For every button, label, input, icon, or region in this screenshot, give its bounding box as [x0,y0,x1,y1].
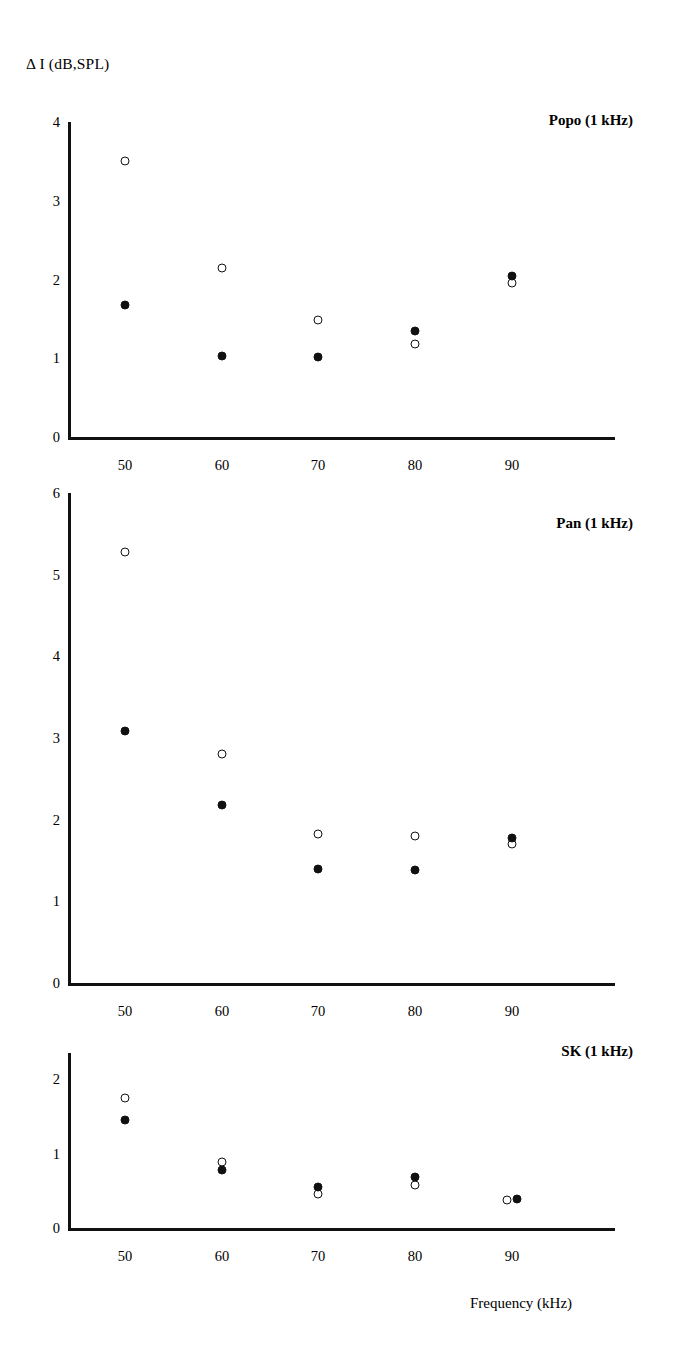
x-axis-line-popo [68,437,615,440]
x-tick-label: 60 [202,457,242,474]
y-axis-line-sk [68,1053,71,1230]
y-tick-label: 0 [30,429,60,446]
x-axis-line-sk [68,1228,615,1231]
x-tick-label: 70 [298,1003,338,1020]
data-point-filled-circle [121,1116,130,1125]
data-point-filled-circle [508,833,517,842]
y-tick-label: 4 [30,648,60,665]
data-point-open-circle [121,1093,130,1102]
y-tick-label: 0 [30,1220,60,1237]
panel-title-pan: Pan (1 kHz) [556,515,633,532]
data-point-filled-circle [411,866,420,875]
data-point-open-circle [314,830,323,839]
data-point-filled-circle [314,1183,323,1192]
plot-area-sk: 0125060708090SK (1 kHz) [0,1043,673,1293]
data-point-filled-circle [121,727,130,736]
y-tick-label: 3 [30,730,60,747]
data-point-filled-circle [121,301,130,310]
y-tick-label: 2 [30,271,60,288]
data-point-open-circle [411,832,420,841]
panel-title-sk: SK (1 kHz) [561,1043,633,1060]
data-point-open-circle [411,340,420,349]
data-point-open-circle [314,316,323,325]
panel-sk: 0125060708090SK (1 kHz) [0,1043,673,1293]
y-tick-label: 5 [30,566,60,583]
data-point-open-circle [508,279,517,288]
plot-area-popo: 012345060708090Popo (1 kHz) [0,112,673,452]
data-point-filled-circle [513,1194,522,1203]
data-point-filled-circle [508,271,517,280]
x-tick-label: 60 [202,1003,242,1020]
x-tick-label: 90 [492,457,532,474]
x-tick-label: 80 [395,457,435,474]
data-point-filled-circle [314,864,323,873]
data-point-filled-circle [411,1173,420,1182]
x-tick-label: 90 [492,1003,532,1020]
y-tick-label: 3 [30,192,60,209]
data-point-filled-circle [218,351,227,360]
y-tick-label: 1 [30,350,60,367]
plot-area-pan: 01234565060708090Pan (1 kHz) [0,483,673,878]
data-point-open-circle [503,1195,512,1204]
y-tick-label: 1 [30,1145,60,1162]
data-point-filled-circle [314,352,323,361]
x-tick-label: 80 [395,1248,435,1265]
data-point-open-circle [218,263,227,272]
panel-popo: 012345060708090Popo (1 kHz) [0,112,673,452]
x-tick-label: 50 [105,1248,145,1265]
data-point-filled-circle [411,326,420,335]
panel-pan: 01234565060708090Pan (1 kHz) [0,483,673,878]
data-point-filled-circle [218,800,227,809]
y-tick-label: 4 [30,114,60,131]
data-point-open-circle [121,157,130,166]
x-tick-label: 70 [298,1248,338,1265]
x-tick-label: 80 [395,1003,435,1020]
y-tick-label: 1 [30,893,60,910]
panel-title-popo: Popo (1 kHz) [549,112,633,129]
figure-scatter-panels: Δ I (dB,SPL) 012345060708090Popo (1 kHz)… [0,0,673,1353]
x-tick-label: 70 [298,457,338,474]
y-tick-label: 2 [30,1071,60,1088]
y-axis-line-popo [68,122,71,439]
x-tick-label: 60 [202,1248,242,1265]
data-point-open-circle [121,547,130,556]
x-axis-line-pan [68,983,615,986]
x-axis-label: Frequency (kHz) [470,1295,572,1312]
data-point-open-circle [218,750,227,759]
y-axis-line-pan [68,493,71,985]
x-tick-label: 90 [492,1248,532,1265]
y-axis-label: Δ I (dB,SPL) [26,55,109,73]
y-tick-label: 2 [30,811,60,828]
x-tick-label: 50 [105,1003,145,1020]
x-tick-label: 50 [105,457,145,474]
y-tick-label: 6 [30,485,60,502]
data-point-filled-circle [218,1165,227,1174]
y-tick-label: 0 [30,975,60,992]
